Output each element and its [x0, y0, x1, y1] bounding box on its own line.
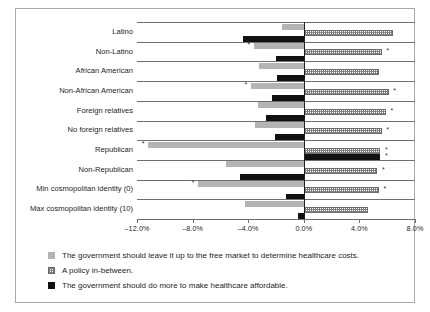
y-axis-category-label: Latino	[112, 27, 133, 36]
significance-marker: *	[242, 82, 250, 88]
legend-swatch-free	[48, 252, 55, 259]
chart-figure: LatinoNon-LatinoAfrican AmericanNon-Afri…	[0, 0, 430, 312]
bar-between	[304, 69, 379, 75]
x-axis-tick-label: 8.0%	[392, 224, 430, 233]
y-axis-labels: LatinoNon-LatinoAfrican AmericanNon-Afri…	[15, 22, 133, 219]
y-axis-category-label: Non-Latino	[96, 47, 133, 56]
bar-free	[148, 142, 304, 148]
y-axis-category-label: Republican	[95, 145, 133, 154]
bar-between	[304, 168, 378, 174]
x-axis-tick	[137, 219, 138, 223]
legend-item: The government should leave it up to the…	[48, 248, 398, 263]
significance-marker: *	[381, 186, 389, 192]
bar-between	[304, 187, 379, 193]
x-axis-tick	[248, 219, 249, 223]
bar-free	[258, 102, 304, 108]
legend-swatch-between	[48, 267, 55, 274]
bar-between	[304, 148, 380, 154]
y-axis-category-label: No foreign relatives	[68, 125, 133, 134]
bar-free	[198, 181, 304, 187]
legend-label: The government should leave it up to the…	[62, 251, 359, 260]
x-axis-tick	[193, 219, 194, 223]
bar-free	[226, 161, 304, 167]
bar-free	[245, 201, 303, 207]
significance-marker: *	[382, 153, 390, 159]
bar-between	[304, 207, 368, 213]
x-axis-tick-label: –4.0%	[225, 224, 271, 233]
plot-area: ************	[137, 22, 415, 219]
bar-between	[304, 30, 393, 36]
x-axis-tick-label: 4.0%	[336, 224, 382, 233]
y-axis-category-label: Non-African American	[59, 86, 133, 95]
x-axis-tick	[359, 219, 360, 223]
zero-reference-line	[304, 22, 305, 219]
bars-layer: ************	[137, 22, 415, 219]
x-axis-tick-label: –8.0%	[170, 224, 216, 233]
bar-free	[254, 43, 304, 49]
bar-between	[304, 109, 386, 115]
y-axis-category-label: Max cosmopolitan identity (10)	[30, 204, 133, 213]
significance-marker: *	[189, 180, 197, 186]
significance-marker: *	[139, 141, 147, 147]
significance-marker: *	[388, 108, 396, 114]
bar-between	[304, 49, 382, 55]
bar-free	[255, 122, 304, 128]
legend-swatch-more	[48, 282, 55, 289]
x-axis-tick-label: –12.0%	[114, 224, 160, 233]
legend-label: A policy in-between.	[62, 266, 133, 275]
y-axis-category-label: Foreign relatives	[77, 106, 133, 115]
significance-marker: *	[384, 48, 392, 54]
significance-marker: *	[384, 127, 392, 133]
bar-free	[251, 83, 304, 89]
bar-between	[304, 89, 389, 95]
legend-label: The government should do more to make he…	[62, 281, 288, 290]
y-axis-category-label: Min cosmopolitan identity (0)	[36, 184, 133, 193]
x-axis-tick	[304, 219, 305, 223]
x-axis-tick-label: 0.0%	[281, 224, 327, 233]
legend-item: The government should do more to make he…	[48, 278, 398, 293]
bar-free	[282, 24, 304, 30]
bar-between	[304, 128, 382, 134]
legend-item: A policy in-between.	[48, 263, 398, 278]
x-axis-tick	[415, 219, 416, 223]
row-separator	[137, 22, 415, 23]
y-axis-category-label: African American	[76, 66, 133, 75]
significance-marker: *	[245, 42, 253, 48]
significance-marker: *	[379, 167, 387, 173]
x-axis-line	[137, 219, 415, 220]
y-axis-category-label: Non-Republican	[79, 165, 133, 174]
bar-free	[259, 63, 303, 69]
significance-marker: *	[391, 88, 399, 94]
chart-legend: The government should leave it up to the…	[48, 248, 398, 293]
